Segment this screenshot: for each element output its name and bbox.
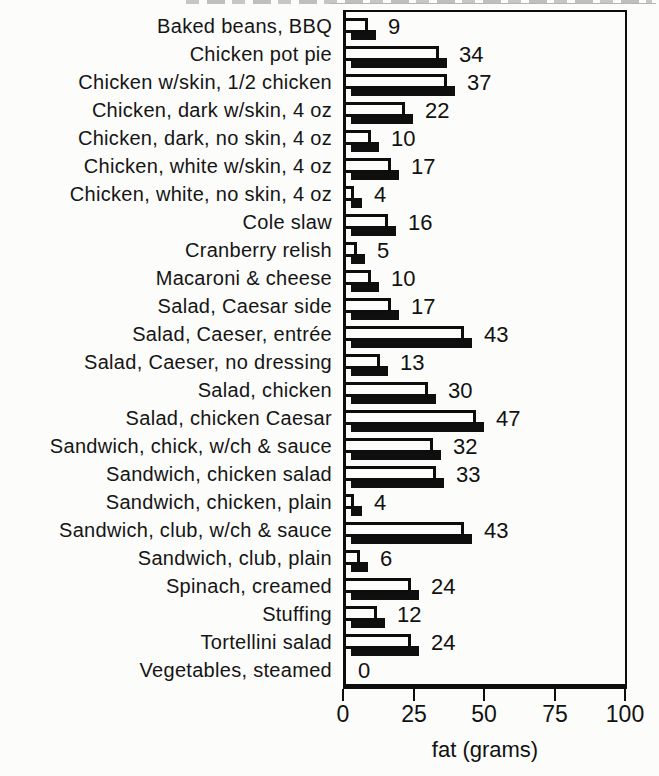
bar xyxy=(343,158,391,173)
category-label: Chicken, dark w/skin, 4 oz xyxy=(0,96,336,124)
bar xyxy=(343,522,464,537)
bar-row: 0 xyxy=(346,656,625,684)
value-label: 10 xyxy=(391,125,415,153)
value-label: 43 xyxy=(484,321,508,349)
category-label: Macaroni & cheese xyxy=(0,264,336,292)
category-label: Salad, chicken Caesar xyxy=(0,404,336,432)
value-label: 5 xyxy=(377,237,389,265)
category-label: Salad, Caeser, entrée xyxy=(0,320,336,348)
bar-row: 43 xyxy=(346,516,625,544)
bar xyxy=(343,634,411,649)
value-label: 4 xyxy=(374,489,386,517)
bar-row: 43 xyxy=(346,320,625,348)
plot-frame: 9343722101741651017431330473233443624122… xyxy=(343,10,627,689)
bar-row: 33 xyxy=(346,460,625,488)
bar-row: 10 xyxy=(346,264,625,292)
bar xyxy=(343,102,405,117)
bar xyxy=(343,606,377,621)
bar-row: 16 xyxy=(346,208,625,236)
x-axis-tick xyxy=(554,689,556,701)
bar-row: 17 xyxy=(346,152,625,180)
value-label: 43 xyxy=(484,517,508,545)
bar xyxy=(343,242,357,257)
bar xyxy=(343,186,354,201)
plot-area: 9343722101741651017431330473233443624122… xyxy=(346,12,625,684)
bar-row: 9 xyxy=(346,12,625,40)
bar-row: 34 xyxy=(346,40,625,68)
category-label-column: Baked beans, BBQChicken pot pieChicken w… xyxy=(0,12,336,684)
category-label: Sandwich, club, plain xyxy=(0,544,336,572)
fat-grams-bar-chart: Baked beans, BBQChicken pot pieChicken w… xyxy=(0,0,659,776)
category-label: Chicken, white, no skin, 4 oz xyxy=(0,180,336,208)
value-label: 17 xyxy=(411,153,435,181)
x-axis-tick xyxy=(342,689,344,701)
bar-row: 13 xyxy=(346,348,625,376)
value-label: 30 xyxy=(448,377,472,405)
bar xyxy=(343,494,354,509)
category-label: Sandwich, chicken, plain xyxy=(0,488,336,516)
x-axis-tick-label: 50 xyxy=(471,701,497,728)
bar-row: 4 xyxy=(346,180,625,208)
category-label: Cranberry relish xyxy=(0,236,336,264)
x-axis-title: fat (grams) xyxy=(343,737,627,763)
bar-row: 5 xyxy=(346,236,625,264)
category-label: Salad, chicken xyxy=(0,376,336,404)
value-label: 0 xyxy=(358,657,370,685)
x-axis-tick-label: 25 xyxy=(401,701,427,728)
bar xyxy=(343,74,447,89)
bar xyxy=(343,18,368,33)
bar xyxy=(343,270,371,285)
bar-row: 22 xyxy=(346,96,625,124)
bar-row: 10 xyxy=(346,124,625,152)
value-label: 22 xyxy=(425,97,449,125)
value-label: 32 xyxy=(453,433,477,461)
value-label: 47 xyxy=(496,405,520,433)
value-label: 13 xyxy=(400,349,424,377)
bar xyxy=(343,410,476,425)
x-axis-tick xyxy=(624,689,626,701)
category-label: Vegetables, steamed xyxy=(0,656,336,684)
value-label: 10 xyxy=(391,265,415,293)
x-axis-tick-label: 100 xyxy=(606,701,644,728)
bar xyxy=(343,382,428,397)
category-label: Baked beans, BBQ xyxy=(0,12,336,40)
category-label: Sandwich, chick, w/ch & sauce xyxy=(0,432,336,460)
bar xyxy=(343,550,360,565)
bar xyxy=(343,46,439,61)
bar-row: 17 xyxy=(346,292,625,320)
category-label: Chicken, dark, no skin, 4 oz xyxy=(0,124,336,152)
value-label: 17 xyxy=(411,293,435,321)
category-label: Stuffing xyxy=(0,600,336,628)
value-label: 34 xyxy=(459,41,483,69)
bar xyxy=(343,354,380,369)
bar xyxy=(343,466,436,481)
bar xyxy=(343,578,411,593)
value-label: 12 xyxy=(397,601,421,629)
bar-row: 4 xyxy=(346,488,625,516)
x-axis-tick-label: 0 xyxy=(337,701,350,728)
value-label: 33 xyxy=(456,461,480,489)
x-axis-tick xyxy=(483,689,485,701)
bar-row: 30 xyxy=(346,376,625,404)
cropped-title-underline xyxy=(330,3,656,4)
value-label: 37 xyxy=(467,69,491,97)
bar-row: 32 xyxy=(346,432,625,460)
bar-row: 6 xyxy=(346,544,625,572)
category-label: Chicken, white w/skin, 4 oz xyxy=(0,152,336,180)
category-label: Salad, Caeser, no dressing xyxy=(0,348,336,376)
category-label: Chicken w/skin, 1/2 chicken xyxy=(0,68,336,96)
value-label: 6 xyxy=(380,545,392,573)
bar-row: 24 xyxy=(346,628,625,656)
value-label: 4 xyxy=(374,181,386,209)
bar xyxy=(343,214,388,229)
bar-row: 47 xyxy=(346,404,625,432)
value-label: 24 xyxy=(431,573,455,601)
bar xyxy=(343,130,371,145)
value-label: 9 xyxy=(388,13,400,41)
category-label: Sandwich, club, w/ch & sauce xyxy=(0,516,336,544)
bar xyxy=(343,438,433,453)
bar xyxy=(343,298,391,313)
category-label: Cole slaw xyxy=(0,208,336,236)
category-label: Tortellini salad xyxy=(0,628,336,656)
category-label: Sandwich, chicken salad xyxy=(0,460,336,488)
